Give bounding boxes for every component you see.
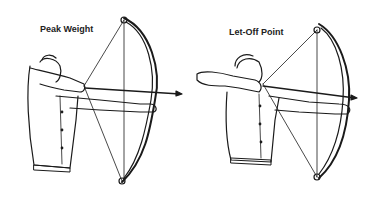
panel-peak-weight: Peak Weight (0, 0, 189, 198)
archer-torso (28, 66, 78, 168)
bow-arm (269, 96, 350, 114)
bow-limb (122, 18, 157, 182)
arrow (263, 86, 355, 98)
archer-torso (226, 92, 279, 162)
draw-arm (30, 68, 85, 92)
panel-let-off-point: Let-Off Point (189, 0, 378, 198)
arrow (85, 88, 180, 94)
bow-arm (56, 96, 156, 112)
archer-peak-weight-illustration (0, 0, 189, 198)
archer-let-off-illustration (189, 0, 378, 198)
draw-arm (197, 72, 261, 92)
bow-limb (319, 24, 349, 178)
